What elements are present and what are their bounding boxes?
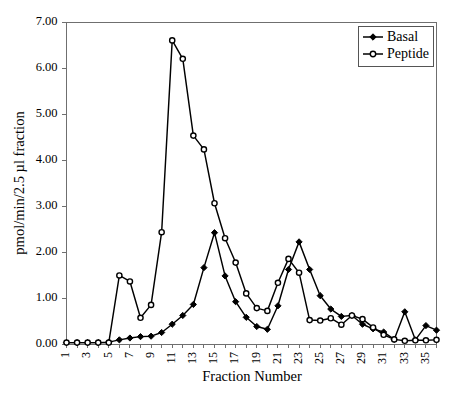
data-point bbox=[212, 201, 217, 206]
y-tick-label: 4.00 bbox=[36, 152, 58, 166]
data-point bbox=[222, 273, 228, 279]
series-line-basal bbox=[67, 233, 437, 343]
data-point bbox=[264, 326, 270, 332]
data-point bbox=[106, 340, 111, 345]
x-axis: 1357911131517192123252729313335 bbox=[58, 344, 436, 364]
data-point bbox=[339, 322, 344, 327]
x-tick-label: 21 bbox=[270, 352, 284, 364]
y-tick-label: 1.00 bbox=[36, 290, 58, 304]
data-point bbox=[275, 303, 281, 309]
data-point bbox=[180, 56, 185, 61]
y-tick-label: 3.00 bbox=[36, 198, 58, 212]
x-tick-label: 11 bbox=[164, 352, 178, 364]
data-point bbox=[64, 340, 69, 345]
x-tick-label: 35 bbox=[418, 352, 432, 364]
data-point bbox=[360, 317, 365, 322]
legend-marker-peptide bbox=[370, 51, 375, 56]
x-axis-title: Fraction Number bbox=[202, 368, 302, 384]
y-axis-title: pmol/min/2.5 µl fraction bbox=[11, 111, 27, 255]
data-point bbox=[370, 325, 375, 330]
x-tick-label: 9 bbox=[143, 352, 157, 358]
data-point bbox=[381, 332, 386, 337]
data-point bbox=[127, 279, 132, 284]
x-tick-label: 29 bbox=[354, 352, 368, 364]
data-point bbox=[433, 327, 439, 333]
x-tick-label: 33 bbox=[397, 352, 411, 364]
data-point bbox=[254, 306, 259, 311]
data-point bbox=[307, 266, 313, 272]
data-point bbox=[307, 317, 312, 322]
y-tick-label: 6.00 bbox=[36, 60, 58, 74]
y-tick-label: 0.00 bbox=[36, 336, 58, 350]
x-tick-label: 7 bbox=[122, 352, 136, 358]
data-point bbox=[286, 256, 291, 261]
data-point bbox=[328, 316, 333, 321]
x-tick-label: 25 bbox=[312, 352, 326, 364]
x-tick-label: 3 bbox=[79, 352, 93, 358]
data-point bbox=[222, 236, 227, 241]
data-point bbox=[233, 260, 238, 265]
data-point bbox=[138, 315, 143, 320]
data-point bbox=[137, 334, 143, 340]
data-point bbox=[201, 265, 207, 271]
data-point bbox=[85, 340, 90, 345]
chart-container: 0.001.002.003.004.005.006.007.00 1357911… bbox=[0, 0, 454, 395]
data-point bbox=[74, 340, 79, 345]
series-line-peptide bbox=[67, 40, 437, 342]
data-point bbox=[434, 337, 439, 342]
legend[interactable]: BasalPeptide bbox=[358, 26, 433, 66]
x-tick-label: 27 bbox=[333, 352, 347, 364]
x-tick-label: 13 bbox=[185, 352, 199, 364]
data-point bbox=[275, 280, 280, 285]
line-chart: 0.001.002.003.004.005.006.007.00 1357911… bbox=[0, 0, 454, 395]
data-point bbox=[116, 337, 122, 343]
y-tick-label: 2.00 bbox=[36, 244, 58, 258]
legend-label: Basal bbox=[387, 29, 418, 44]
series-plot-area bbox=[63, 38, 439, 346]
data-point bbox=[127, 335, 133, 341]
legend-label: Peptide bbox=[387, 46, 429, 61]
data-point bbox=[402, 309, 408, 315]
x-tick-label: 15 bbox=[206, 352, 220, 364]
data-point bbox=[265, 308, 270, 313]
data-point bbox=[148, 333, 154, 339]
y-tick-label: 5.00 bbox=[36, 106, 58, 120]
data-point bbox=[413, 338, 418, 343]
x-tick-label: 1 bbox=[58, 352, 72, 358]
data-point bbox=[285, 266, 291, 272]
x-tick-label: 5 bbox=[101, 352, 115, 358]
data-point bbox=[402, 338, 407, 343]
y-tick-label: 7.00 bbox=[36, 14, 58, 28]
data-point bbox=[318, 318, 323, 323]
data-point bbox=[349, 313, 354, 318]
data-point bbox=[117, 273, 122, 278]
x-tick-label: 23 bbox=[291, 352, 305, 364]
data-point bbox=[423, 338, 428, 343]
x-tick-label: 19 bbox=[249, 352, 263, 364]
data-point bbox=[296, 270, 301, 275]
data-point bbox=[170, 38, 175, 43]
y-axis: 0.001.002.003.004.005.006.007.00 bbox=[36, 14, 67, 350]
data-point bbox=[159, 230, 164, 235]
data-point bbox=[392, 337, 397, 342]
data-point bbox=[191, 133, 196, 138]
data-point bbox=[296, 239, 302, 245]
data-point bbox=[96, 340, 101, 345]
x-tick-label: 17 bbox=[227, 352, 241, 364]
data-point bbox=[201, 147, 206, 152]
data-point bbox=[211, 230, 217, 236]
x-tick-label: 31 bbox=[375, 352, 389, 364]
data-point bbox=[244, 291, 249, 296]
data-point bbox=[148, 302, 153, 307]
